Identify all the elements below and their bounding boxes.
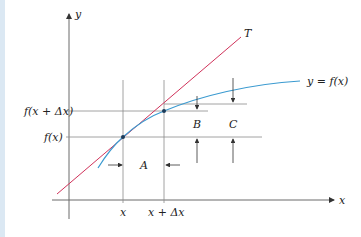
tangent-label: T: [244, 27, 253, 40]
region-c-label: C: [229, 118, 238, 131]
fx-dx-label: f(x + Δx): [23, 105, 73, 118]
curve-label: y = f(x): [306, 75, 348, 88]
derivative-diagram: y x T y = f(x) f(x) f(x + Δx) x x + Δx A…: [0, 0, 361, 237]
x-tick-label: x: [120, 206, 127, 219]
x-dx-tick-label: x + Δx: [148, 206, 185, 219]
fx-label: f(x): [43, 131, 63, 144]
y-axis-label: y: [74, 8, 82, 21]
point-x-dx: [162, 109, 166, 113]
x-axis-label: x: [339, 194, 346, 207]
region-b-label: B: [192, 118, 201, 131]
point-x: [121, 135, 125, 139]
region-a-label: A: [139, 159, 148, 172]
tangent-line: [57, 37, 241, 194]
